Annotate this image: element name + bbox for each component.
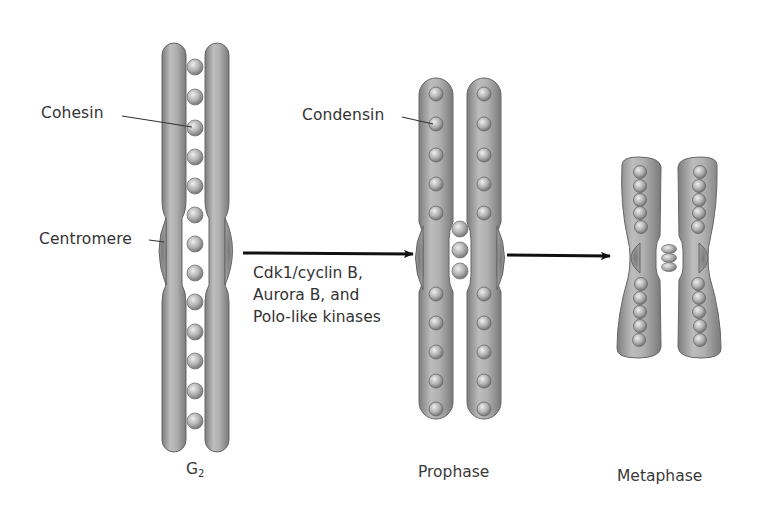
cohesin-beads [187, 59, 203, 429]
metaphase-chromosome [617, 157, 721, 358]
label-cohesin: Cohesin [41, 104, 104, 122]
transition-note: Cdk1/cyclin B, Aurora B, and Polo-like k… [253, 262, 381, 328]
g2-centromere-left [159, 218, 166, 285]
label-centromere: Centromere [39, 230, 132, 248]
arrow-g2-to-prophase [243, 253, 413, 254]
stage-label-prophase: Prophase [418, 463, 489, 481]
prophase-centromere-right [497, 226, 505, 290]
transition-note-line-2: Aurora B, and [253, 284, 381, 306]
stage-label-g2: G2 [186, 460, 204, 479]
metaphase-cohesin-beads [662, 245, 677, 272]
transition-note-line-1: Cdk1/cyclin B, [253, 262, 381, 284]
label-condensin: Condensin [302, 106, 384, 124]
prophase-chromosome [402, 78, 505, 419]
transition-note-line-3: Polo-like kinases [253, 306, 381, 328]
prophase-centromere-left [416, 226, 424, 290]
chromosome-diagram [0, 0, 768, 525]
stage-label-metaphase: Metaphase [617, 467, 702, 485]
g2-chromosome [122, 43, 233, 452]
prophase-cohesin-beads [452, 221, 468, 279]
stage-label-g2-main: G [186, 460, 198, 478]
stage-label-g2-subscript: 2 [198, 468, 204, 479]
g2-centromere-right [225, 218, 233, 285]
arrow-prophase-to-metaphase [507, 255, 610, 256]
